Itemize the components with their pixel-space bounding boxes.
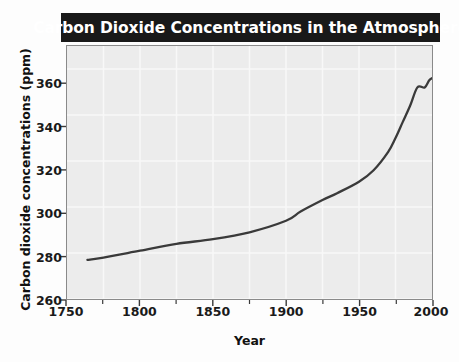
x-tick-1900: 1900	[261, 304, 311, 319]
chart-title-bar: Carbon Dioxide Concentrations in the Atm…	[61, 13, 440, 42]
grid-lines	[67, 46, 432, 299]
co2-chart-figure: Carbon Dioxide Concentrations in the Atm…	[0, 0, 459, 362]
x-tick-1850: 1850	[188, 304, 238, 319]
y-axis-title: Carbon dioxide concentrations (ppm)	[18, 45, 33, 315]
plot-area	[66, 45, 433, 300]
x-tick-1750: 1750	[41, 304, 91, 319]
plot-svg	[67, 46, 432, 299]
x-tick-1800: 1800	[114, 304, 164, 319]
x-axis-title: Year	[66, 333, 433, 348]
x-tick-1950: 1950	[335, 304, 385, 319]
x-tick-2000: 2000	[406, 304, 456, 319]
page-title: Carbon Dioxide Concentrations in the Atm…	[33, 19, 459, 37]
x-axis-tick-labels: 1750 1800 1850 1900 1950 2000	[0, 304, 459, 322]
co2-trend-line	[87, 78, 432, 260]
